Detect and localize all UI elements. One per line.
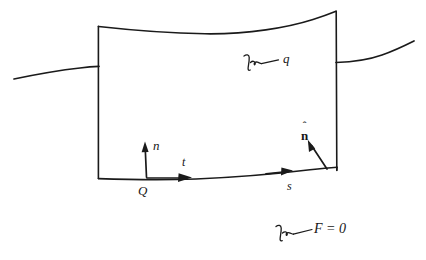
label-tangent-vector-t: t: [182, 156, 185, 168]
tangent-vector-t-arrowhead: [178, 173, 192, 182]
diagram-svg: [0, 0, 426, 260]
label-unit-normal-n-hat: ˆ n: [301, 122, 308, 142]
q-callout-squiggle-tail: [251, 61, 262, 64]
surface-callout-leader-line: [293, 230, 312, 235]
element-right-edge: [336, 11, 337, 170]
label-arclength-s: s: [287, 180, 292, 192]
label-point-q: Q: [138, 184, 147, 197]
right-surface-curve: [336, 41, 414, 63]
label-heat-flux-q: q: [283, 52, 290, 65]
surface-callout-squiggle-tail: [283, 232, 294, 235]
q-callout-leader-line: [261, 60, 278, 64]
element-top-edge: [99, 11, 336, 34]
q-callout-squiggle: [244, 55, 250, 70]
surface-callout-squiggle: [276, 225, 282, 241]
normal-vector-n-arrowhead: [142, 142, 149, 153]
label-normal-vector-n: n: [153, 139, 160, 152]
unit-normal-letter: n: [301, 129, 308, 142]
label-surface-equation: F = 0: [314, 222, 346, 236]
left-surface-curve: [14, 66, 99, 79]
element-bottom-edge: [98, 167, 337, 180]
figure-canvas: n t s Q q ˆ n F = 0: [0, 0, 426, 260]
